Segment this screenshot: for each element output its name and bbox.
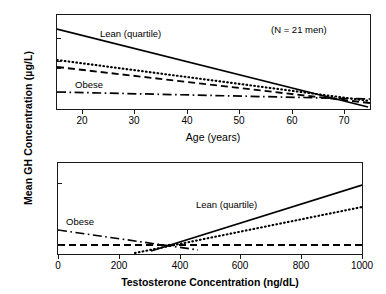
top-x-tick — [344, 110, 345, 114]
bottom-x-tick-label: 600 — [220, 260, 260, 271]
bottom-x-tick — [58, 255, 59, 259]
bottom-series-obese-dashdot — [58, 230, 198, 250]
bottom-x-tick — [301, 255, 302, 259]
top-y-tick — [57, 68, 61, 69]
top-x-tick — [82, 110, 83, 114]
top-x-tick-label: 50 — [219, 115, 259, 126]
bottom-x-axis-title: Testosterone Concentration (ng/dL) — [85, 276, 335, 288]
bottom-y-tick — [58, 183, 62, 184]
bottom-x-tick — [362, 255, 363, 259]
bottom-x-tick-label: 0 — [38, 260, 78, 271]
top-x-tick-label: 20 — [62, 115, 102, 126]
figure-root: Mean GH Concentration (µg/L) — [0, 0, 386, 294]
top-y-tick — [57, 61, 61, 62]
bottom-x-tick-label: 400 — [160, 260, 200, 271]
top-sample-size-annotation: (N = 21 men) — [271, 24, 327, 35]
top-y-tick — [57, 92, 61, 93]
top-x-tick — [292, 110, 293, 114]
top-x-tick-label: 40 — [167, 115, 207, 126]
bottom-x-tick — [240, 255, 241, 259]
top-x-tick-label: 70 — [324, 115, 364, 126]
bottom-series-lean-solid — [151, 185, 362, 251]
bottom-x-tick — [180, 255, 181, 259]
top-x-axis-title: Age (years) — [143, 131, 283, 143]
top-x-tick-label: 60 — [272, 115, 312, 126]
bottom-x-tick-label: 1000 — [342, 260, 382, 271]
top-x-tick — [239, 110, 240, 114]
bottom-x-tick-label: 200 — [99, 260, 139, 271]
top-panel-lines — [0, 0, 386, 150]
top-x-tick — [134, 110, 135, 114]
top-series-second-dotted — [57, 60, 370, 101]
bottom-panel-lines — [0, 150, 386, 294]
top-panel: 20 30 40 50 60 70 Age (years) Lean (quar… — [0, 0, 386, 150]
bottom-panel: 0 200 400 600 800 1000 Testosterone Conc… — [0, 150, 386, 294]
bottom-x-tick-label: 800 — [281, 260, 321, 271]
top-label-obese: Obese — [75, 79, 103, 90]
top-x-tick — [187, 110, 188, 114]
top-x-tick-label: 30 — [114, 115, 154, 126]
top-y-tick — [57, 38, 61, 39]
bottom-y-tick — [58, 230, 62, 231]
bottom-label-obese: Obese — [66, 216, 94, 227]
bottom-x-tick — [119, 255, 120, 259]
top-label-lean: Lean (quartile) — [100, 28, 161, 39]
bottom-label-lean: Lean (quartile) — [196, 199, 257, 210]
bottom-y-tick — [58, 245, 62, 246]
